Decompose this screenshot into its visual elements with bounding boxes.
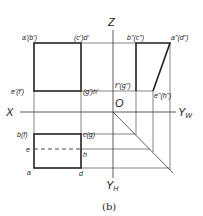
label-c: c(g) — [83, 131, 95, 139]
label-a: a — [27, 169, 31, 176]
label-d: d — [79, 170, 84, 177]
label-a-prime: a'(b') — [22, 34, 37, 42]
label-d-prime: (c')d' — [74, 34, 89, 42]
45-degree-line — [113, 112, 173, 173]
side-view — [136, 43, 170, 91]
projection-lines — [34, 43, 170, 170]
label-e: e — [26, 146, 30, 153]
label-b-double: b"(c") — [127, 34, 144, 42]
label-a-double: a"(d") — [171, 34, 188, 42]
label-b: b(f) — [17, 131, 28, 139]
top-view — [34, 134, 81, 168]
front-view — [34, 43, 81, 91]
orthographic-projection-diagram: Z X O YW YH a'(b') (c')d' e'(f') (g')h' … — [0, 0, 203, 216]
figure-caption: (b) — [102, 201, 116, 212]
label-h-prime: (g')h' — [83, 88, 99, 96]
x-axis-label: X — [5, 106, 14, 118]
axes — [20, 30, 176, 178]
origin-label: O — [115, 97, 124, 109]
label-h: h — [83, 151, 87, 158]
label-f-double: f"(g") — [115, 82, 130, 90]
z-axis-label: Z — [107, 16, 116, 28]
yh-axis-label: YH — [106, 179, 119, 192]
yw-axis-label: YW — [178, 106, 193, 119]
label-e-double: e"(h") — [154, 92, 171, 100]
label-e-prime: e'(f') — [11, 88, 24, 96]
